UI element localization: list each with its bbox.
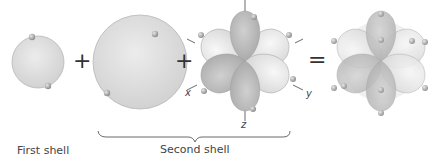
electron-icon	[29, 34, 35, 40]
combined-orbitals	[330, 11, 431, 116]
second-shell-2s-orbital	[93, 15, 187, 109]
equals-operator: =	[308, 49, 326, 71]
electron-icon	[152, 31, 158, 37]
first-shell-1s-orbital	[12, 34, 64, 89]
x-axis-label: x	[185, 87, 191, 98]
y-axis-label: y	[306, 88, 312, 99]
electron-icon	[45, 83, 51, 89]
plus-operator: +	[73, 50, 91, 72]
electron-icon	[104, 90, 110, 96]
second-shell-label: Second shell	[160, 143, 230, 156]
plus-operator: +	[175, 50, 193, 72]
second-shell-brace	[98, 131, 290, 142]
second-shell-2p-orbitals	[187, 0, 303, 121]
z-axis-label: z	[241, 119, 246, 130]
first-shell-label: First shell	[17, 144, 69, 157]
orbital-diagram	[0, 0, 437, 163]
